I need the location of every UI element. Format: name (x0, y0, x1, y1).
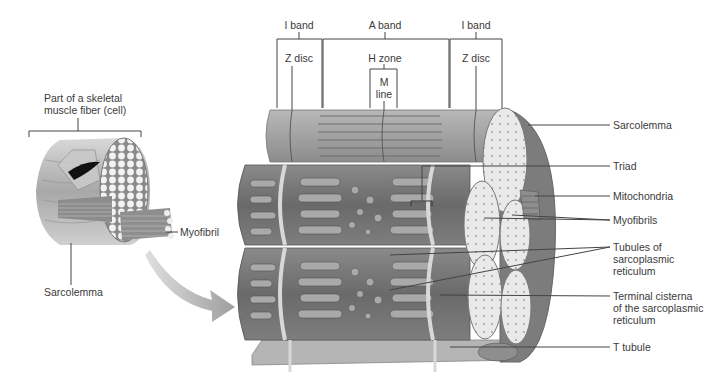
triad-label: Triad (613, 160, 637, 172)
fiber-label-line2: muscle fiber (cell) (44, 104, 114, 116)
sarcolemma-left-label: Sarcolemma (44, 286, 103, 298)
sarcolemma-right-label: Sarcolemma (613, 119, 672, 131)
z-disc-right-label: Z disc (456, 52, 496, 64)
m-line-label-line1: M (371, 76, 397, 88)
muscle-fiber-diagram: Part of a skeletal muscle fiber (cell) M… (0, 0, 724, 381)
a-band-label: A band (360, 19, 410, 31)
m-line-label: M line (371, 76, 397, 100)
myofibrils-label: Myofibrils (613, 214, 657, 226)
terminal-cisterna-line1: Terminal cisterna (613, 290, 703, 302)
terminal-cisterna-line2: of the sarcoplasmic (613, 302, 703, 314)
h-zone-label: H zone (360, 52, 410, 64)
tubules-sr-label: Tubules of sarcoplasmic reticulum (613, 241, 674, 277)
fiber-label: Part of a skeletal muscle fiber (cell) (44, 92, 114, 116)
mitochondria-label: Mitochondria (613, 190, 673, 202)
myofibril-block-illustration (238, 108, 556, 372)
i-band-left-label: I band (279, 19, 319, 31)
tubules-sr-line3: reticulum (613, 265, 674, 277)
tubules-sr-line1: Tubules of (613, 241, 674, 253)
magnify-arrow-icon (145, 250, 235, 322)
z-disc-left-label: Z disc (279, 52, 319, 64)
terminal-cisterna-label: Terminal cisterna of the sarcoplasmic re… (613, 290, 703, 326)
myofibril-label: Myofibril (180, 226, 219, 238)
t-tubule-label: T tubule (613, 341, 651, 353)
m-line-label-line2: line (371, 88, 397, 100)
i-band-right-label: I band (456, 19, 496, 31)
fiber-label-line1: Part of a skeletal (44, 92, 114, 104)
terminal-cisterna-line3: reticulum (613, 314, 703, 326)
tubules-sr-line2: sarcoplasmic (613, 253, 674, 265)
